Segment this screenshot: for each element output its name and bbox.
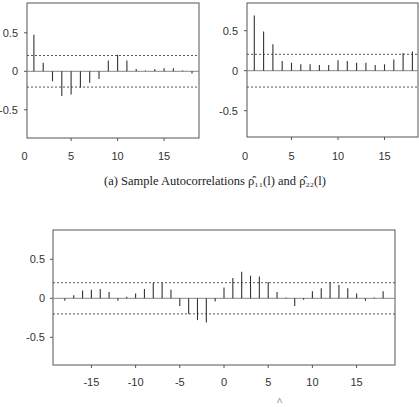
x-tick-label: 5 <box>265 376 271 388</box>
x-tick-label: 0 <box>221 376 227 388</box>
y-tick-label: 0 <box>12 65 18 77</box>
x-tick-label: 0 <box>242 150 248 162</box>
x-tick-label: 0 <box>22 150 28 162</box>
chart-canvas: 0.50-0.50510150.50-0.50510150.50-0.5-15-… <box>0 0 419 407</box>
x-tick-label: -10 <box>128 376 144 388</box>
x-tick-label: 15 <box>350 376 362 388</box>
x-tick-label: 15 <box>378 150 390 162</box>
caption-a-rho11: ρ̂₁₁(l) <box>248 174 275 188</box>
y-tick-label: 0 <box>232 65 238 77</box>
x-tick-label: 5 <box>288 150 294 162</box>
x-tick-label: 5 <box>68 150 74 162</box>
y-tick-label: -0.5 <box>219 105 238 117</box>
x-tick-label: 15 <box>158 150 170 162</box>
caption-b-partial: ^ <box>277 395 282 407</box>
plot-acf11: 0.50-0.5051015 <box>0 3 199 162</box>
y-tick-label: 0 <box>39 292 45 304</box>
caption-a-middle: and <box>275 174 299 188</box>
caption-a: (a) Sample Autocorrelations ρ̂₁₁(l) and … <box>104 174 326 189</box>
y-tick-label: 0.5 <box>223 25 238 37</box>
y-tick-label: -0.5 <box>0 104 18 116</box>
x-tick-label: -5 <box>175 376 185 388</box>
caption-a-rho22: ρ̂₂₂(l) <box>299 174 326 188</box>
x-tick-label: 10 <box>111 150 123 162</box>
caption-a-prefix: (a) Sample Autocorrelations <box>104 174 248 188</box>
x-tick-label: 10 <box>306 376 318 388</box>
x-tick-label: 10 <box>332 150 344 162</box>
plot-acf22: 0.50-0.5051015 <box>219 3 418 162</box>
y-tick-label: -0.5 <box>26 331 45 343</box>
y-tick-label: 0.5 <box>30 253 45 265</box>
plot-ccf12: 0.50-0.5-15-10-5051015 <box>26 230 395 388</box>
y-tick-label: 0.5 <box>3 27 18 39</box>
x-tick-label: -15 <box>83 376 99 388</box>
